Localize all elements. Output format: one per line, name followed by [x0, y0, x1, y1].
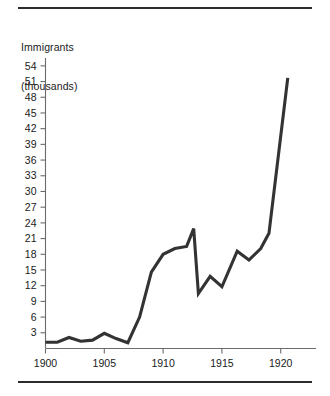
x-tick-label: 1905: [93, 357, 117, 369]
y-tick-label: 24: [25, 217, 37, 229]
figure-container: Immigrants (thousands) 36912151821242730…: [0, 0, 330, 396]
y-tick-label: 33: [25, 169, 37, 181]
y-tick-label: 42: [25, 122, 37, 134]
x-tick-label: 1900: [34, 357, 58, 369]
data-series-line: [46, 78, 288, 343]
x-tick-label: 1920: [269, 357, 293, 369]
y-tick-label: 36: [25, 154, 37, 166]
y-tick-labels: 369121518212427303336394245485154: [25, 60, 37, 339]
y-tick-label: 12: [25, 279, 37, 291]
y-tick-label: 3: [31, 326, 37, 338]
line-chart-plot: 369121518212427303336394245485154 190019…: [0, 0, 330, 396]
y-tick-label: 54: [25, 60, 37, 72]
y-tick-label: 27: [25, 201, 37, 213]
y-tick-label: 39: [25, 138, 37, 150]
y-tick-marks: [41, 66, 46, 333]
bottom-divider-rule: [18, 381, 312, 383]
y-tick-label: 51: [25, 75, 37, 87]
x-tick-marks: [46, 349, 281, 354]
y-tick-label: 18: [25, 248, 37, 260]
data-series-group: [46, 78, 288, 343]
x-tick-label: 1915: [210, 357, 234, 369]
y-tick-label: 9: [31, 295, 37, 307]
y-tick-label: 45: [25, 107, 37, 119]
y-tick-label: 6: [31, 311, 37, 323]
y-tick-label: 30: [25, 185, 37, 197]
y-tick-label: 48: [25, 91, 37, 103]
x-tick-labels: 19001905191019151920: [34, 357, 293, 369]
y-tick-label: 21: [25, 232, 37, 244]
y-tick-label: 15: [25, 264, 37, 276]
x-tick-label: 1910: [151, 357, 175, 369]
